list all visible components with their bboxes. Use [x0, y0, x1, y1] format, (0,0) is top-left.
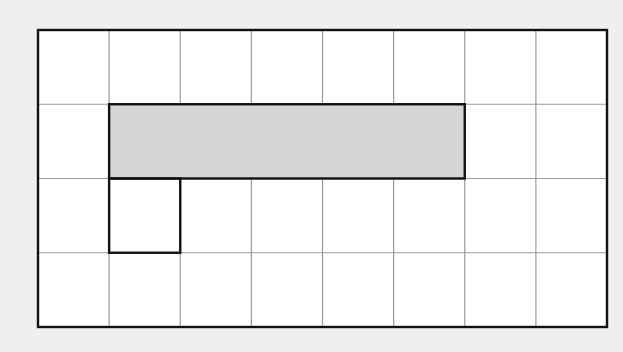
grid-diagram — [0, 0, 623, 352]
diagram-canvas — [0, 0, 623, 352]
shaded-rectangle — [109, 104, 465, 178]
